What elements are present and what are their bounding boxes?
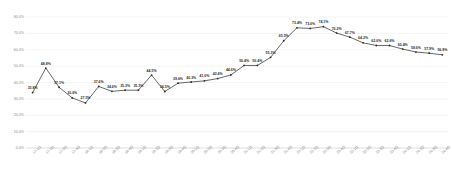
data-point-label: 70.2% bbox=[332, 27, 342, 31]
data-point-label: 57.9% bbox=[424, 47, 434, 51]
data-point-marker bbox=[85, 102, 87, 104]
data-point-marker bbox=[309, 28, 311, 30]
data-point-label: 40.3% bbox=[186, 76, 196, 80]
data-point-marker bbox=[441, 54, 443, 56]
data-point-marker bbox=[124, 89, 126, 91]
data-point-label: 74.1% bbox=[318, 20, 328, 24]
y-tick-label: 70.0% bbox=[0, 31, 24, 35]
line-chart: 0.0%10.0%20.0%30.0%40.0%50.0%60.0%70.0%8… bbox=[0, 0, 452, 183]
data-point-marker bbox=[151, 74, 153, 76]
data-point-label: 62.6% bbox=[385, 39, 395, 43]
data-point-marker bbox=[389, 45, 391, 47]
data-point-marker bbox=[402, 48, 404, 50]
y-tick-label: 10.0% bbox=[0, 130, 24, 134]
data-point-label: 65.5% bbox=[279, 34, 289, 38]
data-point-label: 33.8% bbox=[28, 86, 38, 90]
data-point-marker bbox=[32, 92, 34, 94]
data-point-marker bbox=[45, 67, 47, 69]
data-point-marker bbox=[177, 82, 179, 84]
data-point-label: 44.6% bbox=[226, 68, 236, 72]
data-point-marker bbox=[98, 86, 100, 88]
data-point-marker bbox=[415, 51, 417, 53]
data-point-label: 42.4% bbox=[213, 72, 223, 76]
data-point-marker bbox=[296, 27, 298, 29]
data-point-label: 44.5% bbox=[147, 69, 157, 73]
data-point-label: 41.0% bbox=[199, 74, 209, 78]
data-point-label: 64.2% bbox=[358, 36, 368, 40]
data-point-label: 27.5% bbox=[81, 96, 91, 100]
data-point-label: 58.6% bbox=[411, 46, 421, 50]
data-point-label: 48.8% bbox=[41, 62, 51, 66]
data-point-marker bbox=[336, 32, 338, 34]
y-tick-label: 50.0% bbox=[0, 64, 24, 68]
data-point-label: 73.0% bbox=[305, 22, 315, 26]
data-point-marker bbox=[71, 97, 73, 99]
y-tick-label: 20.0% bbox=[0, 113, 24, 117]
data-point-marker bbox=[428, 52, 430, 54]
data-point-marker bbox=[256, 65, 258, 67]
data-point-label: 34.5% bbox=[160, 85, 170, 89]
data-point-label: 56.9% bbox=[437, 48, 447, 52]
data-point-marker bbox=[111, 90, 113, 92]
y-tick-label: 40.0% bbox=[0, 81, 24, 85]
data-point-label: 60.4% bbox=[398, 43, 408, 47]
data-point-marker bbox=[164, 91, 166, 93]
data-point-label: 39.6% bbox=[173, 77, 183, 81]
data-point-label: 30.6% bbox=[67, 91, 77, 95]
data-point-label: 62.6% bbox=[371, 39, 381, 43]
y-tick-label: 30.0% bbox=[0, 97, 24, 101]
data-point-marker bbox=[283, 40, 285, 42]
data-point-label: 73.4% bbox=[292, 21, 302, 25]
data-point-label: 50.4% bbox=[252, 59, 262, 63]
data-point-marker bbox=[362, 42, 364, 44]
data-point-label: 67.7% bbox=[345, 31, 355, 35]
data-point-label: 34.6% bbox=[107, 85, 117, 89]
y-tick-label: 0.0% bbox=[0, 146, 24, 150]
data-point-label: 37.6% bbox=[94, 80, 104, 84]
data-point-marker bbox=[270, 57, 272, 59]
data-point-label: 55.3% bbox=[266, 51, 276, 55]
data-point-label: 35.3% bbox=[120, 84, 130, 88]
data-point-marker bbox=[230, 74, 232, 76]
data-point-marker bbox=[204, 80, 206, 82]
data-point-marker bbox=[217, 78, 219, 80]
data-point-marker bbox=[349, 36, 351, 38]
data-point-label: 35.3% bbox=[133, 84, 143, 88]
data-point-marker bbox=[137, 89, 139, 91]
y-tick-label: 60.0% bbox=[0, 48, 24, 52]
y-tick-label: 80.0% bbox=[0, 15, 24, 19]
data-point-label: 50.4% bbox=[239, 59, 249, 63]
data-point-marker bbox=[323, 26, 325, 28]
data-point-marker bbox=[243, 65, 245, 67]
data-point-marker bbox=[190, 81, 192, 83]
data-point-marker bbox=[375, 45, 377, 47]
data-point-label: 37.1% bbox=[54, 81, 64, 85]
data-point-marker bbox=[58, 86, 60, 88]
